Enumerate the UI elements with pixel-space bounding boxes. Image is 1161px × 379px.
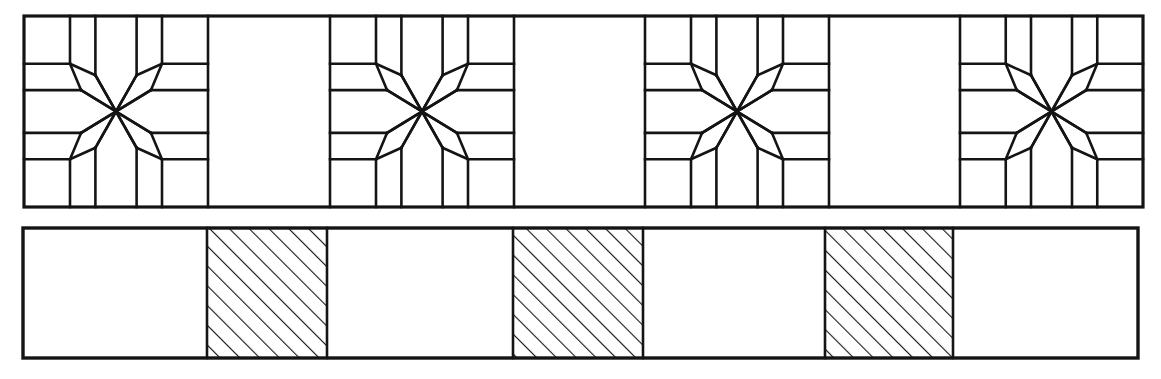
figure-canvas xyxy=(0,0,1161,379)
hatched-square xyxy=(825,228,953,358)
hatch-fill xyxy=(825,228,953,358)
checker-strip-group xyxy=(23,228,1138,358)
hatched-square xyxy=(513,228,643,358)
hatch-fill xyxy=(513,228,643,358)
hatched-square xyxy=(207,228,327,358)
checker-border-strip xyxy=(0,0,1161,379)
hatch-fill xyxy=(207,228,327,358)
